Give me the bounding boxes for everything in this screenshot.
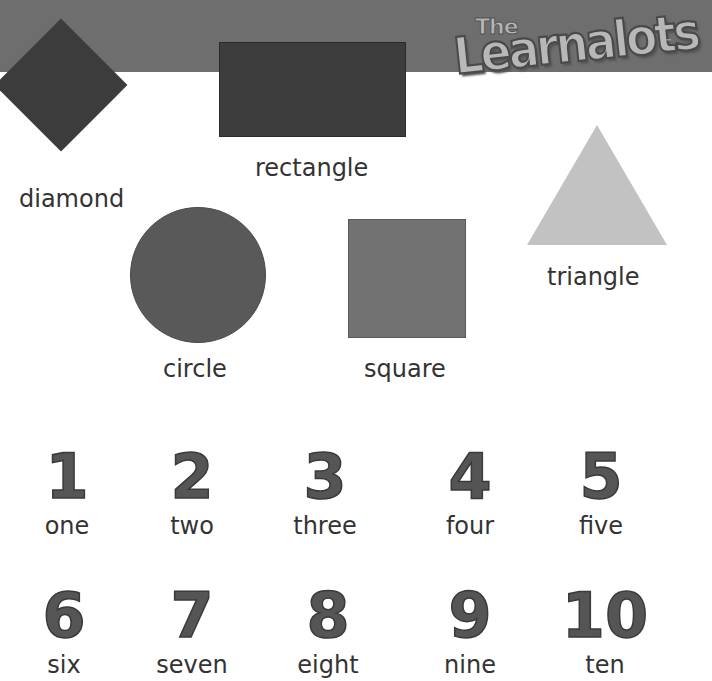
digit: 5 xyxy=(541,446,661,508)
number-card-7: 7 seven xyxy=(132,585,252,679)
number-card-9: 9 nine xyxy=(410,585,530,679)
number-word: four xyxy=(410,512,530,540)
number-card-10: 10 ten xyxy=(545,585,665,679)
number-word: two xyxy=(132,512,252,540)
square-shape xyxy=(348,219,466,338)
number-word: eight xyxy=(268,651,388,679)
circle-label: circle xyxy=(163,355,227,383)
number-word: five xyxy=(541,512,661,540)
circle-shape xyxy=(130,207,266,343)
number-word: six xyxy=(4,651,124,679)
number-card-5: 5 five xyxy=(541,446,661,540)
number-card-4: 4 four xyxy=(410,446,530,540)
digit: 4 xyxy=(410,446,530,508)
number-word: seven xyxy=(132,651,252,679)
number-word: one xyxy=(7,512,127,540)
digit: 1 xyxy=(7,446,127,508)
diamond-label: diamond xyxy=(19,185,124,213)
triangle-label: triangle xyxy=(547,263,640,291)
digit: 3 xyxy=(265,446,385,508)
triangle-shape xyxy=(527,125,667,245)
number-word: three xyxy=(265,512,385,540)
digit: 2 xyxy=(132,446,252,508)
number-card-6: 6 six xyxy=(4,585,124,679)
digit: 7 xyxy=(132,585,252,647)
digit: 9 xyxy=(410,585,530,647)
number-card-3: 3 three xyxy=(265,446,385,540)
rectangle-label: rectangle xyxy=(255,154,368,182)
digit: 6 xyxy=(4,585,124,647)
number-word: nine xyxy=(410,651,530,679)
digit: 10 xyxy=(545,585,665,647)
digit: 8 xyxy=(268,585,388,647)
number-card-1: 1 one xyxy=(7,446,127,540)
rectangle-shape xyxy=(219,42,406,137)
logo-trademark: ™ xyxy=(665,38,672,46)
square-label: square xyxy=(364,355,446,383)
learnalots-logo: The Learnalots ™ xyxy=(455,10,670,100)
number-card-2: 2 two xyxy=(132,446,252,540)
number-card-8: 8 eight xyxy=(268,585,388,679)
number-word: ten xyxy=(545,651,665,679)
